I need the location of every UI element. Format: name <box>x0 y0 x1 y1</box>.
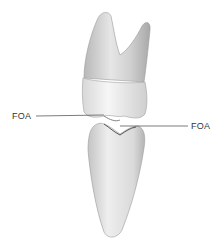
upper-tooth <box>82 12 150 120</box>
teeth-illustration <box>0 0 220 252</box>
lower-tooth <box>88 123 145 237</box>
foa-label-right: FOA <box>191 121 210 131</box>
foa-label-left: FOA <box>12 111 31 121</box>
